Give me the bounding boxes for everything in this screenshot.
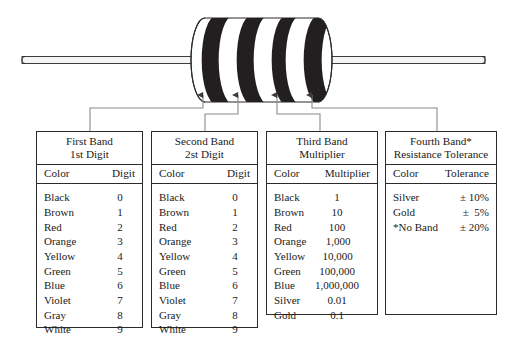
table-fourth-band: Fourth Band* Resistance Tolerance Color … bbox=[385, 131, 497, 315]
table-title: Third Band Multiplier bbox=[267, 132, 377, 165]
cell-value: 3 bbox=[220, 234, 250, 249]
cell-color: Red bbox=[274, 220, 292, 235]
leader-band-2 bbox=[205, 95, 238, 131]
table-row: Yellow4 bbox=[44, 249, 135, 264]
cell-color: Black bbox=[159, 190, 185, 205]
table-body: Black0 Brown1 Red2 Orange3 Yellow4 Green… bbox=[37, 184, 142, 341]
cell-value: 8 bbox=[220, 308, 250, 323]
cell-color: Green bbox=[44, 264, 71, 279]
cell-color: *No Band bbox=[393, 220, 438, 235]
cell-value: 2 bbox=[220, 220, 250, 235]
cell-color: Green bbox=[274, 264, 301, 279]
cell-color: Black bbox=[44, 190, 70, 205]
cell-color: Silver bbox=[274, 293, 300, 308]
cell-value: 0.01 bbox=[304, 293, 370, 308]
cell-color: Yellow bbox=[44, 249, 75, 264]
cell-value: 100,000 bbox=[304, 264, 370, 279]
table-third-band: Third Band Multiplier Color Multiplier B… bbox=[266, 131, 378, 315]
table-body: Black1 Brown10 Red100 Orange1,000 Yellow… bbox=[267, 184, 377, 326]
cell-value: 2 bbox=[105, 220, 135, 235]
cell-value: 6 bbox=[220, 278, 250, 293]
cell-value: 8 bbox=[105, 308, 135, 323]
cell-value: 1,000,000 bbox=[304, 278, 370, 293]
cell-value: 7 bbox=[105, 293, 135, 308]
cell-value: 1 bbox=[220, 205, 250, 220]
cell-color: Gold bbox=[274, 308, 296, 323]
cell-value: 1,000 bbox=[306, 234, 370, 249]
table-row: Red2 bbox=[159, 220, 250, 235]
table-row: Orange3 bbox=[159, 234, 250, 249]
cell-value: 100 bbox=[304, 220, 370, 235]
table-row: Gray8 bbox=[44, 308, 135, 323]
cell-color: Green bbox=[159, 264, 186, 279]
table-row: Black1 bbox=[274, 190, 370, 205]
cell-color: Blue bbox=[274, 278, 295, 293]
table-row: White9 bbox=[44, 322, 135, 337]
leader-band-1 bbox=[90, 95, 203, 131]
table-row: Orange3 bbox=[44, 234, 135, 249]
column-header-color: Color bbox=[44, 167, 69, 180]
table-column-header: Color Digit bbox=[37, 165, 142, 184]
cell-value: 0.1 bbox=[304, 308, 370, 323]
column-header-color: Color bbox=[393, 167, 418, 180]
table-row: Yellow10,000 bbox=[274, 249, 370, 264]
table-row: Orange1,000 bbox=[274, 234, 370, 249]
cell-value: 0 bbox=[220, 190, 250, 205]
table-row: Violet7 bbox=[159, 293, 250, 308]
cell-color: Orange bbox=[44, 234, 76, 249]
table-row: Green100,000 bbox=[274, 264, 370, 279]
cell-value: 4 bbox=[105, 249, 135, 264]
column-header-value: Tolerance bbox=[445, 167, 489, 180]
cell-color: Violet bbox=[159, 293, 186, 308]
table-title-line-1: Second Band bbox=[154, 135, 255, 148]
table-row: Red100 bbox=[274, 220, 370, 235]
cell-color: Brown bbox=[159, 205, 189, 220]
column-header-color: Color bbox=[159, 167, 184, 180]
table-title-line-2: Multiplier bbox=[269, 148, 375, 161]
cell-value: 0 bbox=[105, 190, 135, 205]
cell-color: Black bbox=[274, 190, 300, 205]
leader-lines bbox=[0, 0, 505, 135]
table-row: Gold0.1 bbox=[274, 308, 370, 323]
cell-color: Red bbox=[44, 220, 62, 235]
table-row: Gray8 bbox=[159, 308, 250, 323]
table-title-line-2: 1st Digit bbox=[39, 148, 140, 161]
cell-color: Violet bbox=[44, 293, 71, 308]
table-first-band: First Band 1st Digit Color Digit Black0 … bbox=[36, 131, 143, 328]
table-row: Blue6 bbox=[44, 278, 135, 293]
cell-color: Yellow bbox=[159, 249, 190, 264]
table-row: Red2 bbox=[44, 220, 135, 235]
cell-value: 9 bbox=[105, 322, 135, 337]
cell-color: Orange bbox=[274, 234, 306, 249]
table-row: White9 bbox=[159, 322, 250, 337]
table-row: Black0 bbox=[159, 190, 250, 205]
table-row: Brown10 bbox=[274, 205, 370, 220]
cell-value: 3 bbox=[105, 234, 135, 249]
leader-band-4 bbox=[312, 95, 437, 131]
cell-value: ± 10% bbox=[443, 190, 489, 205]
table-row: Silver0.01 bbox=[274, 293, 370, 308]
cell-value: 5 bbox=[220, 264, 250, 279]
table-row: Gold± 5% bbox=[393, 205, 489, 220]
table-title-line-1: First Band bbox=[39, 135, 140, 148]
table-title: Second Band 2st Digit bbox=[152, 132, 257, 165]
table-title: Fourth Band* Resistance Tolerance bbox=[386, 132, 496, 165]
table-row: Green5 bbox=[159, 264, 250, 279]
table-row: Brown1 bbox=[159, 205, 250, 220]
column-header-value: Digit bbox=[227, 167, 250, 180]
cell-value: 4 bbox=[220, 249, 250, 264]
column-header-color: Color bbox=[274, 167, 299, 180]
cell-value: 6 bbox=[105, 278, 135, 293]
cell-color: Silver bbox=[393, 190, 419, 205]
table-row: Silver± 10% bbox=[393, 190, 489, 205]
cell-value: 10,000 bbox=[305, 249, 370, 264]
cell-value: ± 20% bbox=[443, 220, 489, 235]
column-header-value: Multiplier bbox=[325, 167, 370, 180]
table-title-line-1: Third Band bbox=[269, 135, 375, 148]
table-row: Green5 bbox=[44, 264, 135, 279]
cell-color: Orange bbox=[159, 234, 191, 249]
cell-value: 10 bbox=[304, 205, 370, 220]
cell-color: Gray bbox=[44, 308, 66, 323]
resistor-color-code-chart: First Band 1st Digit Color Digit Black0 … bbox=[0, 0, 505, 342]
table-title-line-1: Fourth Band* bbox=[388, 135, 494, 148]
